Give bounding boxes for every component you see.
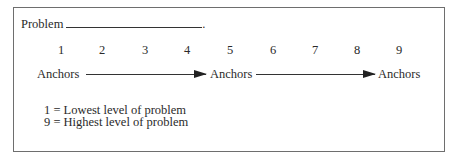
legend-highest: 9 = Highest level of problem <box>44 116 188 128</box>
anchor-mid: Anchors <box>210 67 252 81</box>
problem-label: Problem <box>21 17 63 31</box>
scale-point-5: 5 <box>220 43 240 57</box>
problem-blank-input[interactable] <box>66 16 202 28</box>
scale-point-7: 7 <box>305 43 325 57</box>
problem-terminator: . <box>202 17 205 31</box>
scale-point-4: 4 <box>177 43 197 57</box>
scale-point-3: 3 <box>135 43 155 57</box>
scale-point-2: 2 <box>92 43 112 57</box>
scale-point-6: 6 <box>263 43 283 57</box>
scale-point-1: 1 <box>51 43 71 57</box>
scale-point-9: 9 <box>389 43 409 57</box>
scale-point-8: 8 <box>347 43 367 57</box>
scale-legend: 1 = Lowest level of problem 9 = Highest … <box>44 104 188 128</box>
anchor-low: Anchors <box>37 67 79 81</box>
anchor-high: Anchors <box>378 67 420 81</box>
right-arrow-icon <box>86 74 206 75</box>
right-arrow-icon <box>256 74 375 75</box>
problem-field-row: Problem. <box>21 16 205 32</box>
